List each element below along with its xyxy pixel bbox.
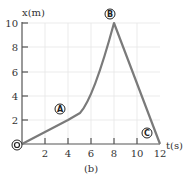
grid: [22, 23, 160, 144]
svg-text:B: B: [107, 10, 113, 19]
point-c-marker: C: [142, 128, 152, 138]
y-tick-10: 10: [5, 18, 18, 29]
x-tick-6: 6: [88, 148, 94, 159]
y-tick-6: 6: [12, 67, 18, 78]
position-time-chart: 10 8 6 4 2 2 4 6 8 10 12 x(m) t(s) (b) A…: [0, 0, 191, 175]
x-tick-4: 4: [65, 148, 71, 159]
x-tick-8: 8: [111, 148, 117, 159]
point-o-marker: [12, 140, 22, 150]
svg-text:C: C: [144, 129, 150, 138]
y-tick-4: 4: [12, 91, 18, 102]
y-axis-label: x(m): [22, 7, 45, 18]
svg-text:A: A: [57, 105, 64, 114]
x-tick-10: 10: [131, 148, 144, 159]
y-tick-8: 8: [12, 42, 18, 53]
x-tick-2: 2: [42, 148, 48, 159]
x-axis-label: t(s): [166, 140, 183, 151]
figure-caption: (b): [84, 163, 98, 174]
point-b-marker: B: [105, 9, 115, 19]
x-tick-12: 12: [154, 148, 167, 159]
point-a-marker: A: [55, 104, 65, 114]
y-tick-2: 2: [12, 115, 18, 126]
